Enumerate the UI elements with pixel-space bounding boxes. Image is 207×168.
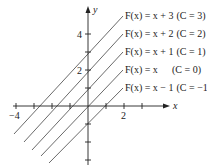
curve-lines bbox=[14, 16, 123, 163]
y-tick-label: 4 bbox=[77, 29, 82, 40]
x-tick-label: −4 bbox=[9, 110, 20, 121]
x-axis-label: x bbox=[172, 100, 178, 111]
curve-label: F(x) = x + 1(C = 1) bbox=[125, 46, 206, 58]
y-axis-arrow-icon bbox=[86, 6, 91, 13]
curve-c3 bbox=[14, 16, 123, 134]
x-axis-arrow-icon bbox=[163, 104, 170, 109]
curve-labels: F(x) = x + 3(C = 3) F(x) = x + 2(C = 2) … bbox=[125, 10, 207, 94]
antiderivative-family-plot: x y −4 2 4 2 F(x) = x + 3(C = 3) F(x) = … bbox=[0, 0, 207, 168]
curve-c0 bbox=[41, 70, 123, 156]
y-axis-label: y bbox=[92, 4, 98, 15]
curve-label: F(x) = x + 3(C = 3) bbox=[125, 10, 206, 22]
y-tick-label: 2 bbox=[77, 65, 82, 76]
curve-label: F(x) = x − 1(C = −1) bbox=[125, 82, 207, 94]
curve-label: F(x) = x + 2(C = 2) bbox=[125, 28, 206, 40]
curve-cneg1 bbox=[49, 88, 123, 163]
x-tick-label: 2 bbox=[121, 110, 126, 121]
curve-label: F(x) = x(C = 0) bbox=[125, 64, 201, 76]
curve-c2 bbox=[24, 34, 123, 142]
